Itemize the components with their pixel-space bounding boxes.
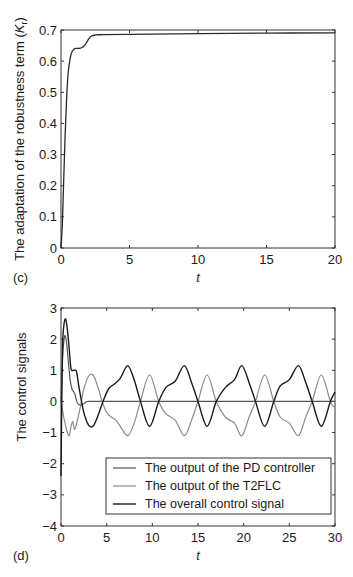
x-tick-label: 10	[145, 530, 159, 545]
x-axis-label: t	[196, 548, 201, 563]
axis-ticks	[61, 30, 335, 248]
x-tick-label: 30	[328, 530, 342, 545]
overall-signal-line	[61, 319, 335, 476]
signal-lines	[61, 319, 335, 476]
x-tick-label: 15	[259, 252, 273, 267]
y-tick-label: 0.1	[39, 209, 57, 224]
x-tick-label: 0	[57, 530, 64, 545]
y-tick-label: −2	[42, 456, 57, 471]
tick-labels: 0510152000.10.20.30.40.50.60.7	[39, 23, 342, 268]
y-tick-label: 0.5	[39, 85, 57, 100]
panel-label-d: (d)	[13, 548, 29, 563]
x-tick-label: 0	[57, 252, 64, 267]
y-tick-label: 0.7	[39, 23, 57, 38]
y-tick-label: 3	[50, 301, 57, 316]
y-axis-label: The control signals	[14, 332, 29, 442]
y-tick-label: 1	[50, 363, 57, 378]
x-tick-label: 5	[126, 252, 133, 267]
legend-label-t2flc: The output of the T2FLC	[145, 479, 281, 493]
chart-panel-d: 051015202530−4−3−2−10123 The output of t…	[13, 301, 342, 564]
plot-area-frame	[61, 30, 335, 248]
x-tick-label: 25	[282, 530, 296, 545]
y-tick-label: −4	[42, 519, 57, 534]
chart-panel-c: 0510152000.10.20.30.40.50.60.7 t (c) The…	[12, 17, 342, 285]
y-tick-label: 0	[50, 394, 57, 409]
x-tick-label: 5	[103, 530, 110, 545]
x-tick-label: 20	[236, 530, 250, 545]
x-tick-label: 20	[328, 252, 342, 267]
kr-line	[61, 33, 335, 248]
legend: The output of the PD controller The outp…	[106, 458, 331, 514]
y-tick-label: 2	[50, 332, 57, 347]
y-tick-label: 0.2	[39, 178, 57, 193]
y-tick-label: 0.3	[39, 147, 57, 162]
y-tick-label: −1	[42, 425, 57, 440]
figure: 0510152000.10.20.30.40.50.60.7 t (c) The…	[0, 0, 353, 577]
legend-label-overall: The overall control signal	[145, 497, 284, 511]
panel-label-c: (c)	[13, 270, 28, 285]
x-tick-label: 10	[191, 252, 205, 267]
x-tick-label: 15	[191, 530, 205, 545]
x-axis-label: t	[196, 270, 201, 285]
y-tick-label: 0.6	[39, 54, 57, 69]
y-tick-label: 0	[50, 241, 57, 256]
y-tick-label: −3	[42, 487, 57, 502]
legend-label-pd: The output of the PD controller	[145, 461, 315, 475]
y-tick-label: 0.4	[39, 116, 57, 131]
y-axis-label: The adaptation of the robustness term (K…	[12, 17, 29, 261]
